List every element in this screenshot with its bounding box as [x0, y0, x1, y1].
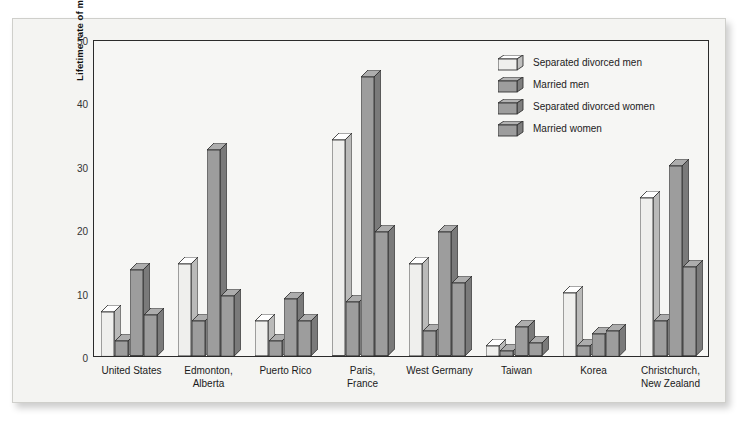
plot-frame: Lifetime rate of major depression per 10… — [93, 40, 709, 357]
x-axis-group-label: Edmonton, Alberta — [184, 364, 232, 390]
x-axis-group-label: Christchurch, New Zealand — [641, 364, 700, 390]
x-axis-group-label: Korea — [580, 364, 607, 377]
y-tick-label: 10 — [77, 289, 88, 300]
x-axis-group-label: Puerto Rico — [259, 364, 311, 377]
bar — [683, 260, 703, 356]
bar — [298, 314, 318, 356]
bars-layer — [94, 41, 708, 356]
figure-card: Lifetime rate of major depression per 10… — [12, 18, 726, 403]
y-tick-label: 40 — [77, 99, 88, 110]
x-axis-group-label: West Germany — [406, 364, 473, 377]
bar — [529, 336, 549, 356]
bar — [221, 289, 241, 356]
y-tick-label: 30 — [77, 162, 88, 173]
x-axis-group-label: Paris, France — [347, 364, 378, 390]
bar — [375, 225, 395, 356]
bar — [606, 324, 626, 356]
y-tick-label: 20 — [77, 226, 88, 237]
x-axis-group-label: United States — [101, 364, 161, 377]
x-axis-group-label: Taiwan — [501, 364, 532, 377]
bar — [452, 276, 472, 356]
y-tick-label: 0 — [82, 353, 88, 364]
y-tick-label: 50 — [77, 36, 88, 47]
bar — [144, 308, 164, 356]
